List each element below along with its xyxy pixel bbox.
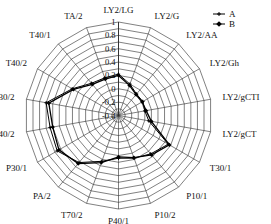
tick-label-0.6: 0.6	[105, 44, 116, 54]
axis-label-LY2-Gh: LY2/Gh	[210, 58, 240, 68]
radial-tick-labels: 10.80.60.40.20-0.2-0.4	[102, 17, 116, 121]
tick-label-0.8: 0.8	[105, 30, 116, 40]
chart-legend[interactable]: AB	[213, 9, 236, 29]
legend-item-A[interactable]: A	[213, 9, 236, 19]
axis-label-LY2-AA: LY2/AA	[186, 30, 218, 40]
axis-label-T40-2: T40/2	[6, 58, 28, 68]
axis-label-P10-1: P10/1	[186, 191, 207, 201]
data-point-B-13	[51, 125, 55, 129]
axis-label-P30-1: P30/1	[6, 163, 27, 173]
spoke-LY2-G	[119, 28, 151, 116]
radar-spokes	[26, 22, 210, 209]
axis-label-P40-1: P40/1	[108, 216, 129, 224]
legend-label-A: A	[229, 9, 236, 19]
tick-label-0.2: 0.2	[105, 70, 116, 80]
tick-label--0.4: -0.4	[102, 111, 116, 121]
tick-label--0.2: -0.2	[102, 97, 115, 107]
tick-label-0: 0	[111, 84, 115, 94]
axis-label-P10-2: P10/2	[155, 210, 176, 220]
axis-label-T40-1: T40/1	[29, 30, 51, 40]
axis-label-PA-2: PA/2	[33, 191, 51, 201]
axis-label-LY2-LG: LY2/LG	[103, 5, 134, 15]
legend-item-B[interactable]: B	[213, 19, 235, 29]
axis-label-TA-2: TA/2	[64, 11, 82, 21]
legend-marker-A	[217, 12, 221, 16]
tick-label-1: 1	[111, 17, 115, 27]
radar-chart: 10.80.60.40.20-0.2-0.4 LY2/LGLY2/GLY2/AA…	[0, 0, 271, 224]
legend-label-B: B	[229, 19, 235, 29]
axis-label-T70-2: T70/2	[61, 210, 83, 220]
spoke-P10-1	[119, 116, 179, 188]
tick-label-0.4: 0.4	[105, 57, 116, 67]
axis-category-labels: LY2/LGLY2/GLY2/AALY2/GhLY2/gCTILY2/gCTT3…	[0, 5, 260, 224]
axis-label-P30-2: P30/2	[0, 92, 15, 102]
axis-label-LY2-gCT: LY2/gCT	[222, 129, 257, 139]
spoke-PA-2	[58, 116, 118, 188]
axis-label-LY2-gCTI: LY2/gCTI	[222, 92, 259, 102]
legend-marker-B	[216, 21, 222, 27]
axis-label-LY2-G: LY2/G	[155, 11, 180, 21]
axis-label-P40-2: P40/2	[0, 129, 15, 139]
spoke-LY2-AA	[119, 44, 179, 116]
axis-label-T30-1: T30/1	[210, 163, 232, 173]
radar-chart-svg: 10.80.60.40.20-0.2-0.4 LY2/LGLY2/GLY2/AA…	[0, 0, 271, 224]
